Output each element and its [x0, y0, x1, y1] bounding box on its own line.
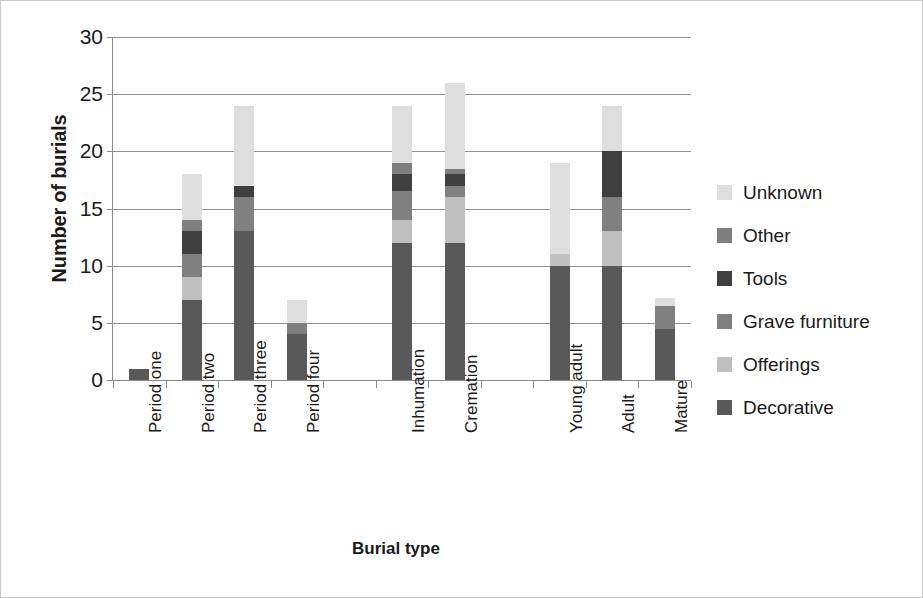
bar-segment-grave-furniture[interactable] [234, 197, 254, 231]
bar-segment-grave-furniture[interactable] [392, 191, 412, 220]
bar-segment-decorative[interactable] [655, 329, 675, 380]
bar-segment-unknown[interactable] [287, 300, 307, 323]
stacked-bar[interactable] [234, 106, 254, 380]
x-tick-mark [376, 381, 377, 388]
y-tick-mark [107, 266, 113, 267]
bar-segment-offerings[interactable] [182, 277, 202, 300]
bar-segment-tools[interactable] [445, 174, 465, 185]
legend-item[interactable]: Tools [717, 257, 870, 300]
y-tick-label: 0 [91, 368, 103, 392]
bar-segment-tools[interactable] [234, 186, 254, 197]
bar-segment-tools[interactable] [602, 151, 622, 197]
legend-label: Grave furniture [743, 311, 870, 333]
x-tick-mark [533, 381, 534, 388]
bar-segment-other[interactable] [392, 163, 412, 174]
category-label: Mature [672, 380, 692, 433]
legend-swatch-icon [717, 314, 732, 329]
y-tick-label: 30 [80, 25, 103, 49]
stacked-bar[interactable] [602, 106, 622, 380]
bar-segment-grave-furniture[interactable] [602, 197, 622, 231]
bar-segment-other[interactable] [182, 220, 202, 231]
bar-segment-unknown[interactable] [550, 163, 570, 254]
y-tick-mark [107, 323, 113, 324]
gridline [113, 94, 691, 95]
y-tick-mark [107, 151, 113, 152]
bar-segment-grave-furniture[interactable] [287, 323, 307, 334]
chart-legend: UnknownOtherToolsGrave furnitureOffering… [717, 171, 870, 429]
bar-segment-grave-furniture[interactable] [445, 186, 465, 197]
plot-area: 051015202530 Period onePeriod twoPeriod … [113, 37, 691, 380]
legend-label: Tools [743, 268, 787, 290]
stacked-bar[interactable] [655, 298, 675, 380]
bar-segment-unknown[interactable] [182, 174, 202, 220]
y-axis-title: Number of burials [48, 49, 71, 349]
legend-label: Other [743, 225, 791, 247]
category-label: Young adult [567, 344, 587, 433]
gridline [113, 37, 691, 38]
category-label: Period two [199, 353, 219, 433]
y-tick-label: 10 [80, 254, 103, 278]
bar-segment-decorative[interactable] [602, 266, 622, 380]
category-label: Period one [146, 351, 166, 433]
stacked-bar[interactable] [182, 174, 202, 380]
category-label: Inhumation [409, 349, 429, 433]
y-tick-label: 15 [80, 197, 103, 221]
bar-segment-offerings[interactable] [602, 231, 622, 265]
stacked-bar[interactable] [392, 106, 412, 380]
bar-segment-unknown[interactable] [445, 83, 465, 169]
y-tick-mark [107, 209, 113, 210]
y-tick-label: 25 [80, 82, 103, 106]
bar-segment-tools[interactable] [392, 174, 412, 191]
legend-label: Decorative [743, 397, 834, 419]
legend-swatch-icon [717, 400, 732, 415]
legend-label: Unknown [743, 182, 822, 204]
bar-segment-grave-furniture[interactable] [182, 254, 202, 277]
category-label: Period four [304, 350, 324, 433]
legend-swatch-icon [717, 228, 732, 243]
legend-label: Offerings [743, 354, 820, 376]
bar-segment-offerings[interactable] [550, 254, 570, 265]
stacked-bar[interactable] [445, 83, 465, 380]
legend-swatch-icon [717, 271, 732, 286]
x-axis-title: Burial type [86, 539, 706, 559]
x-tick-mark [113, 381, 114, 388]
x-tick-mark [638, 381, 639, 388]
y-tick-label: 5 [91, 311, 103, 335]
legend-item[interactable]: Other [717, 214, 870, 257]
y-tick-mark [107, 94, 113, 95]
y-tick-label: 20 [80, 139, 103, 163]
category-label: Adult [619, 394, 639, 433]
bar-segment-unknown[interactable] [602, 106, 622, 152]
bar-segment-offerings[interactable] [392, 220, 412, 243]
legend-item[interactable]: Unknown [717, 171, 870, 214]
legend-item[interactable]: Offerings [717, 343, 870, 386]
bar-segment-unknown[interactable] [392, 106, 412, 163]
bar-segment-grave-furniture[interactable] [655, 306, 675, 329]
legend-swatch-icon [717, 357, 732, 372]
legend-item[interactable]: Grave furniture [717, 300, 870, 343]
legend-item[interactable]: Decorative [717, 386, 870, 429]
chart-figure: Number of burials Burial type 0510152025… [0, 0, 923, 598]
category-label: Period three [251, 340, 271, 433]
bar-segment-unknown[interactable] [234, 106, 254, 186]
bar-segment-unknown[interactable] [655, 298, 675, 306]
legend-swatch-icon [717, 185, 732, 200]
y-tick-mark [107, 37, 113, 38]
category-label: Cremation [462, 355, 482, 433]
bar-segment-tools[interactable] [182, 231, 202, 254]
bar-segment-offerings[interactable] [445, 197, 465, 243]
